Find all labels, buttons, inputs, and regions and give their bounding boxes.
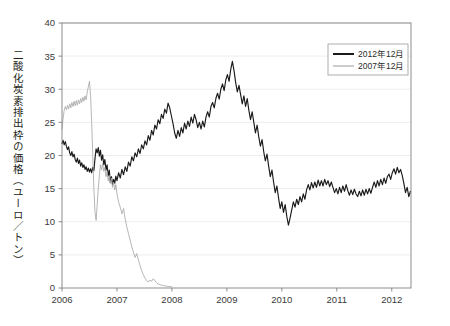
y-tick-label: 10 (44, 216, 55, 227)
y-tick-label: 30 (44, 84, 55, 95)
x-tick-label: 2008 (161, 294, 182, 305)
x-tick-label: 2011 (327, 294, 347, 305)
x-tick-label: 2006 (51, 294, 72, 305)
x-tick-label: 2007 (106, 294, 127, 305)
data-series-group (62, 61, 410, 286)
y-axis-ticks: 0510152025303540 (44, 17, 62, 293)
legend-label-1: 2012年12月 (358, 49, 404, 59)
y-tick-label: 20 (44, 150, 55, 161)
x-tick-label: 2009 (216, 294, 237, 305)
series-line-1 (62, 61, 410, 225)
x-tick-label: 2010 (271, 294, 292, 305)
chart-plot: 0510152025303540 20062007200820092010201… (0, 0, 450, 326)
x-tick-label: 2012 (381, 294, 402, 305)
y-tick-label: 15 (44, 183, 55, 194)
y-tick-label: 0 (50, 282, 55, 293)
y-tick-label: 35 (44, 51, 55, 62)
x-axis-ticks: 2006200720082009201020112012 (51, 288, 402, 305)
chart-legend: 2012年12月2007年12月 (328, 44, 408, 75)
y-tick-label: 40 (44, 17, 55, 28)
chart-figure: 二酸化炭素排出枠の価格（ユーロ／トン） 0510152025303540 200… (0, 0, 450, 326)
series-line-2 (62, 81, 172, 287)
y-tick-label: 5 (50, 249, 55, 260)
y-tick-label: 25 (44, 117, 55, 128)
legend-label-2: 2007年12月 (358, 61, 404, 71)
